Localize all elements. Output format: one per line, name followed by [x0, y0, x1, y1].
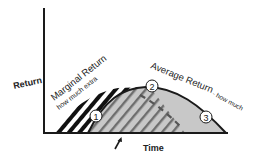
marker-2: 2 — [146, 80, 158, 92]
returns-diagram: 1 2 3 Return Time Marginal Return how mu… — [0, 0, 258, 163]
marker-3: 3 — [200, 111, 212, 123]
svg-text:2: 2 — [149, 82, 154, 92]
marker-1: 1 — [90, 110, 102, 122]
y-axis-label: Return — [12, 75, 42, 91]
svg-text:3: 3 — [203, 113, 208, 123]
svg-text:1: 1 — [93, 112, 98, 122]
average-return-sublabel: - how much — [212, 90, 245, 112]
x-axis-label: Time — [143, 143, 164, 153]
arrow-icon — [115, 137, 122, 149]
